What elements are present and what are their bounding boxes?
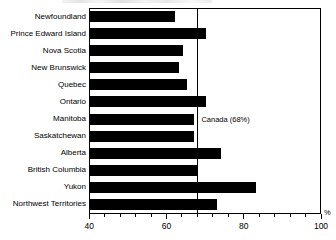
category-label: Northwest Territories bbox=[0, 199, 86, 208]
category-label: Prince Edward Island bbox=[0, 29, 86, 38]
x-tick-label: 40 bbox=[85, 221, 94, 231]
category-label: Newfoundland bbox=[0, 12, 86, 21]
x-tick-minor bbox=[305, 214, 306, 217]
x-tick-minor bbox=[135, 214, 136, 217]
bar-northwest-territories bbox=[90, 199, 217, 210]
x-tick-label: 100 bbox=[314, 221, 328, 231]
x-axis-ticks bbox=[0, 214, 336, 221]
bar-saskatchewan bbox=[90, 131, 194, 142]
category-axis-labels: NewfoundlandPrince Edward IslandNova Sco… bbox=[0, 8, 86, 214]
bar-nova-scotia bbox=[90, 45, 183, 56]
bar-alberta bbox=[90, 148, 221, 159]
x-tick-label: 80 bbox=[239, 221, 248, 231]
x-tick-major bbox=[166, 214, 167, 219]
x-tick-major bbox=[89, 214, 90, 219]
x-tick-minor bbox=[290, 214, 291, 217]
category-label: New Brunswick bbox=[0, 63, 86, 72]
category-label: Nova Scotia bbox=[0, 46, 86, 55]
bar-yukon bbox=[90, 182, 256, 193]
cropped-title-remnant bbox=[62, 0, 212, 3]
category-label: Saskatchewan bbox=[0, 131, 86, 140]
bar-series bbox=[90, 9, 320, 213]
x-tick-minor bbox=[228, 214, 229, 217]
bar-newfoundland bbox=[90, 11, 175, 22]
bar-manitoba bbox=[90, 114, 194, 125]
x-tick-minor bbox=[151, 214, 152, 217]
x-tick-minor bbox=[259, 214, 260, 217]
x-tick-minor bbox=[274, 214, 275, 217]
x-tick-major bbox=[243, 214, 244, 219]
x-tick-minor bbox=[104, 214, 105, 217]
canada-reference-label: Canada (68%) bbox=[201, 116, 249, 124]
x-axis-unit-label: % bbox=[324, 209, 331, 217]
bar-ontario bbox=[90, 96, 206, 107]
category-label: Manitoba bbox=[0, 114, 86, 123]
x-tick-minor bbox=[181, 214, 182, 217]
bar-prince-edward-island bbox=[90, 28, 206, 39]
bar-quebec bbox=[90, 79, 187, 90]
chart-container: NewfoundlandPrince Edward IslandNova Sco… bbox=[0, 0, 336, 240]
category-label: Ontario bbox=[0, 97, 86, 106]
x-tick-minor bbox=[197, 214, 198, 217]
bar-new-brunswick bbox=[90, 62, 179, 73]
x-tick-minor bbox=[120, 214, 121, 217]
x-axis-tick-labels: 406080100 bbox=[0, 221, 336, 233]
x-tick-minor bbox=[212, 214, 213, 217]
canada-reference-line bbox=[197, 8, 198, 213]
x-tick-major bbox=[321, 214, 322, 219]
category-label: Alberta bbox=[0, 148, 86, 157]
x-tick-label: 60 bbox=[162, 221, 171, 231]
category-label: Yukon bbox=[0, 182, 86, 191]
category-label: British Columbia bbox=[0, 165, 86, 174]
category-label: Quebec bbox=[0, 80, 86, 89]
bar-british-columbia bbox=[90, 165, 198, 176]
